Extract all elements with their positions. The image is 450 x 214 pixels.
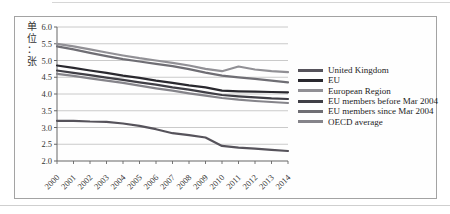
- y-tick-label: 2.0: [41, 156, 52, 166]
- series-line-united-kingdom: [57, 121, 288, 151]
- legend-swatch-oecd-average: [298, 120, 323, 123]
- x-tick-label: 2006: [141, 172, 160, 191]
- y-axis: 6.05.55.04.54.03.53.02.52.0: [41, 22, 57, 166]
- legend-item-eu-members-since-mar-2004: EU members since Mar 2004: [298, 106, 438, 116]
- x-tick-label: 2011: [224, 172, 243, 191]
- legend-item-european-region: European Region: [298, 86, 438, 96]
- legend-swatch-eu: [298, 79, 323, 82]
- x-tick-label: 2002: [75, 172, 94, 191]
- legend-swatch-eu-members-since-mar-2004: [298, 110, 323, 113]
- legend-swatch-eu-members-before-mar-2004: [298, 100, 323, 103]
- y-tick-label: 3.0: [41, 123, 52, 133]
- x-tick-label: 2000: [42, 172, 61, 191]
- legend-label-oecd-average: OECD average: [328, 117, 383, 127]
- legend-swatch-united-kingdom: [298, 69, 323, 72]
- y-tick-label: 4.5: [41, 72, 52, 82]
- x-tick-label: 2013: [257, 172, 276, 191]
- legend-label-eu-members-before-mar-2004: EU members before Mar 2004: [328, 96, 438, 106]
- figure-frame: 单 位 ： 张 6.05.55.04.54.03.53.02.52.020002…: [14, 16, 437, 199]
- legend-label-united-kingdom: United Kingdom: [328, 65, 389, 75]
- legend-label-european-region: European Region: [328, 86, 391, 96]
- x-tick-label: 2010: [207, 172, 226, 191]
- y-tick-label: 5.0: [41, 56, 52, 66]
- series-line-european-region: [57, 44, 288, 72]
- legend: United KingdomEUEuropean RegionEU member…: [298, 65, 438, 127]
- legend-item-eu-members-before-mar-2004: EU members before Mar 2004: [298, 96, 438, 106]
- y-tick-label: 2.5: [41, 139, 52, 149]
- legend-item-united-kingdom: United Kingdom: [298, 65, 438, 75]
- gridlines: [57, 27, 288, 144]
- figure: 单 位 ： 张 6.05.55.04.54.03.53.02.52.020002…: [0, 0, 450, 214]
- x-tick-label: 2012: [240, 172, 259, 191]
- x-tick-label: 2001: [59, 172, 78, 191]
- scan-artifact-line-bottom: [0, 205, 450, 206]
- x-tick-label: 2009: [191, 172, 210, 191]
- x-tick-label: 2004: [108, 172, 128, 192]
- scan-artifact-line-top: [52, 2, 450, 3]
- y-tick-label: 5.5: [41, 39, 52, 49]
- legend-label-eu: EU: [328, 75, 340, 85]
- line-chart: 6.05.55.04.54.03.53.02.52.02000200120022…: [32, 18, 296, 194]
- x-tick-label: 2008: [174, 172, 193, 191]
- legend-item-eu: EU: [298, 75, 438, 85]
- x-tick-label: 2003: [92, 172, 111, 191]
- x-axis: 2000200120022003200420052006200720082009…: [42, 161, 293, 191]
- y-tick-label: 3.5: [41, 106, 52, 116]
- x-tick-label: 2007: [158, 172, 177, 191]
- legend-item-oecd-average: OECD average: [298, 116, 438, 126]
- legend-label-eu-members-since-mar-2004: EU members since Mar 2004: [328, 106, 433, 116]
- x-tick-label: 2014: [273, 172, 293, 192]
- x-tick-label: 2005: [125, 172, 144, 191]
- y-tick-label: 6.0: [41, 22, 52, 32]
- y-tick-label: 4.0: [41, 89, 52, 99]
- series-line-eu-members-before-mar-2004: [57, 71, 288, 100]
- legend-swatch-european-region: [298, 89, 323, 92]
